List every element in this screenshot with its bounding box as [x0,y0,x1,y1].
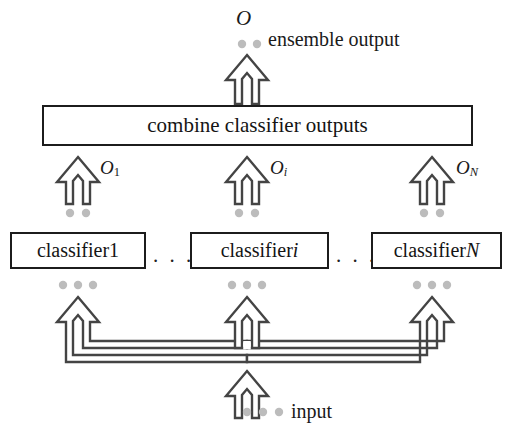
dots-under-oi [235,209,259,217]
combine-classifier-outputs-label: combine classifier outputs [147,113,367,138]
classifier-i-label: classifier [221,239,293,262]
classifier-1-label: classifier [37,239,109,262]
oi-symbol: O [270,157,284,178]
on-arrow [411,157,453,204]
classifier-1-index: 1 [109,239,119,262]
dots-under-classifier-i [228,281,266,289]
input-label: input [291,401,332,421]
figure-canvas: O ensemble output combine classifier out… [0,0,508,434]
o1-symbol: O [100,157,114,178]
o1-subscript: 1 [114,165,120,179]
dots-under-ensemble-output [238,40,261,48]
diagram-vectors [0,0,508,434]
ensemble-output-label: ensemble output [268,29,400,49]
dots-under-on [420,209,444,217]
oi-subscript: i [284,165,287,179]
classifier-i-index: i [293,239,299,262]
ensemble-output-symbol: O [236,8,251,29]
classifier-n-label: classifier [394,239,466,262]
classifier-n-index: N [466,239,479,262]
dots-under-classifier-n [413,281,451,289]
o1-label: O1 [100,158,120,179]
classifier-n-box[interactable]: classifier N [371,232,502,269]
on-subscript: N [470,165,478,179]
ellipsis-left: . . . [153,243,194,268]
on-label: ON [456,158,478,179]
fanout-arrow-left [57,297,247,362]
bus-junction-mask-upper [243,341,251,349]
oi-label: Oi [270,158,287,179]
dots-under-input [243,408,283,416]
on-symbol: O [456,157,470,178]
ensemble-output-arrow [226,55,268,104]
dots-under-o1 [66,209,90,217]
o1-arrow [57,157,99,204]
combine-classifier-outputs-box[interactable]: combine classifier outputs [42,105,473,146]
fanout-arrow-right [247,297,453,362]
oi-arrow [226,157,268,204]
classifier-i-box[interactable]: classifier i [190,232,329,269]
dots-under-classifier-1 [59,281,97,289]
classifier-1-box[interactable]: classifier 1 [10,232,146,269]
